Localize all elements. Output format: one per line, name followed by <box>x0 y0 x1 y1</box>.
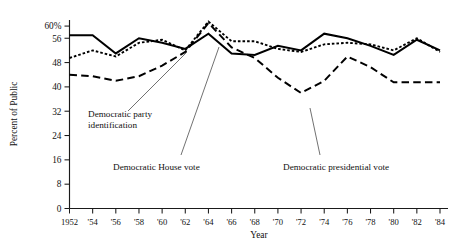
annotation-party-identification-line1: Democratic party <box>88 109 152 119</box>
x-tick-label: '74 <box>319 217 330 227</box>
series-democratic-party-identification <box>70 22 441 58</box>
line-chart: Percent of Public 0816243240485660% 1952… <box>0 0 459 249</box>
x-tick-label: '54 <box>88 217 99 227</box>
x-tick-label: '56 <box>111 217 122 227</box>
x-tick-label: '72 <box>296 217 306 227</box>
y-tick-labels: 0816243240485660% <box>44 21 61 213</box>
y-tick-label: 60% <box>44 21 61 31</box>
x-tick-label: '68 <box>250 217 260 227</box>
x-tick-label: '64 <box>203 217 214 227</box>
series-democratic-house-vote <box>70 34 441 55</box>
x-tick-label: '62 <box>180 217 190 227</box>
leader-presidential-vote <box>310 108 320 155</box>
chart-container: Percent of Public 0816243240485660% 1952… <box>0 0 459 249</box>
series-group <box>70 22 441 93</box>
x-tick-label: '60 <box>157 217 167 227</box>
x-tick-label: '80 <box>389 217 399 227</box>
x-tick-label: 1952 <box>61 217 78 227</box>
y-axis-title-group: Percent of Public <box>9 82 19 147</box>
x-tick-marks <box>70 209 441 214</box>
annotation-presidential-vote: Democratic presidential vote <box>283 162 389 172</box>
y-axis-title: Percent of Public <box>9 82 19 147</box>
annotation-labels: Democratic party identification Democrat… <box>88 109 389 172</box>
y-tick-label: 24 <box>52 131 62 141</box>
y-tick-label: 16 <box>52 155 62 165</box>
x-axis-title: Year <box>250 230 268 240</box>
annotation-party-identification-line2: identification <box>88 120 137 130</box>
y-tick-marks <box>65 26 70 208</box>
annotation-leaders <box>128 47 320 155</box>
y-tick-label: 48 <box>52 58 62 68</box>
y-tick-label: 32 <box>52 107 62 117</box>
x-tick-label: '66 <box>227 217 238 227</box>
x-tick-label: '78 <box>365 217 375 227</box>
leader-party-identification <box>128 52 187 111</box>
y-tick-label: 56 <box>52 34 62 44</box>
x-tick-label: '70 <box>273 217 283 227</box>
x-tick-label: '84 <box>435 217 446 227</box>
y-tick-label: 8 <box>57 179 62 189</box>
leader-house-vote <box>181 47 219 155</box>
series-democratic-presidential-vote <box>70 23 441 93</box>
y-tick-label: 0 <box>57 204 62 214</box>
x-axis-title-group: Year <box>250 230 268 240</box>
x-tick-labels: 1952'54'56'58'60'62'64'66'68'70'72'74'76… <box>61 217 446 227</box>
annotation-house-vote: Democratic House vote <box>113 162 200 172</box>
x-tick-label: '58 <box>134 217 144 227</box>
y-tick-label: 40 <box>52 82 62 92</box>
x-tick-label: '82 <box>412 217 422 227</box>
x-tick-label: '76 <box>342 217 353 227</box>
